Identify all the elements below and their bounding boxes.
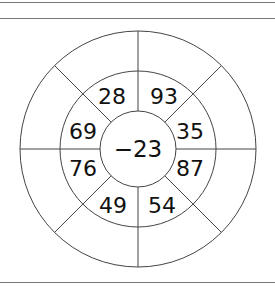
inner-value-bottom-right: 54 [148,193,176,218]
inner-value-bottom-left: 49 [99,193,127,218]
inner-value-right-upper: 35 [176,119,204,144]
number-wheel: −23 28 93 35 87 54 49 76 69 [0,0,275,287]
inner-value-top-left: 28 [98,84,126,109]
inner-value-right-lower: 87 [176,156,204,181]
inner-value-left-upper: 69 [69,119,97,144]
inner-value-top-right: 93 [150,84,178,109]
center-value: −23 [114,136,163,162]
inner-value-left-lower: 76 [69,156,97,181]
